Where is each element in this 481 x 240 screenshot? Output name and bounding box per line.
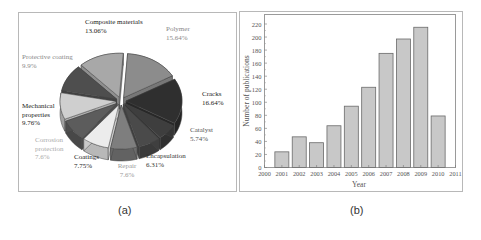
y-tick-label: 80 [255,112,262,119]
y-tick-label: 200 [252,34,262,41]
caption-b: (b) [350,204,363,216]
bar-2010 [431,116,445,168]
bar-2006 [362,87,376,167]
x-tick-label: 2001 [276,170,289,177]
x-tick-label: 2011 [449,170,461,177]
pie-label-repair: Repair7.6% [118,162,137,179]
bar-2004 [327,126,341,168]
bar-2003 [310,143,324,168]
x-tick-label: 2005 [345,170,358,177]
x-tick-label: 2002 [293,170,306,177]
bar-2005 [344,106,358,167]
x-tick-label: 2008 [397,170,410,177]
y-tick-label: 120 [252,86,262,93]
bar-2002 [292,137,306,168]
pie-label-cracks: Cracks16.64% [202,90,224,107]
y-tick-label: 140 [252,73,262,80]
x-tick-label: 2010 [432,170,445,177]
bar-2008 [396,39,410,167]
x-tick-label: 2007 [380,170,393,177]
y-tick-label: 100 [252,99,262,106]
x-tick-label: 2006 [362,170,375,177]
y-tick-label: 180 [252,47,262,54]
x-tick-label: 2009 [414,170,427,177]
y-tick-label: 60 [255,125,262,132]
x-tick-label: 2004 [328,170,341,177]
y-tick-label: 20 [255,151,262,158]
bar-2009 [414,27,428,167]
pie-chart [60,53,182,161]
x-tick-label: 2000 [258,170,271,177]
caption-a: (a) [118,204,131,216]
pie-label-polymer: Polymer15.64% [166,25,190,42]
y-axis-label: Number of publications [242,55,251,126]
y-tick-label: 40 [255,138,262,145]
y-tick-label: 220 [252,21,262,28]
x-tick-label: 2003 [310,170,323,177]
bar-2007 [379,53,393,167]
x-axis-label: Year [352,180,366,189]
y-tick-label: 160 [252,60,262,67]
